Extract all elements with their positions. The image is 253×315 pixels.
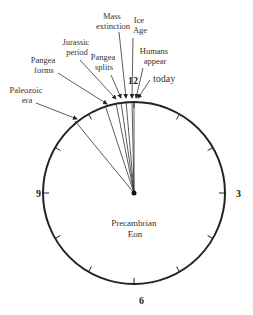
hour-label-3: 3 xyxy=(236,188,241,199)
radial-lines xyxy=(75,101,134,193)
geologic-time-clock: Paleozoic era Pangea forms Jurassic peri… xyxy=(0,0,253,315)
event-label-paleozoic: Paleozoic era xyxy=(9,85,44,105)
hour-label-6: 6 xyxy=(139,295,144,306)
event-label-mass-extinction: Mass extinction xyxy=(96,11,131,31)
event-label-pangea-forms: Pangea forms xyxy=(31,55,58,75)
clock-center-dot xyxy=(132,191,137,196)
precambrian-eon-label: Precambrian Eon xyxy=(111,218,159,239)
event-label-humans-appear: Humans appear xyxy=(140,46,170,66)
event-label-today: today xyxy=(153,73,175,84)
event-label-jurassic: Jurassic period xyxy=(62,37,91,57)
hour-label-12: 12 xyxy=(128,75,138,86)
event-label-pangea-splits: Pangea splits xyxy=(91,52,118,72)
event-label-ice-age: Ice Age xyxy=(133,15,147,35)
hour-label-9: 9 xyxy=(36,188,41,199)
